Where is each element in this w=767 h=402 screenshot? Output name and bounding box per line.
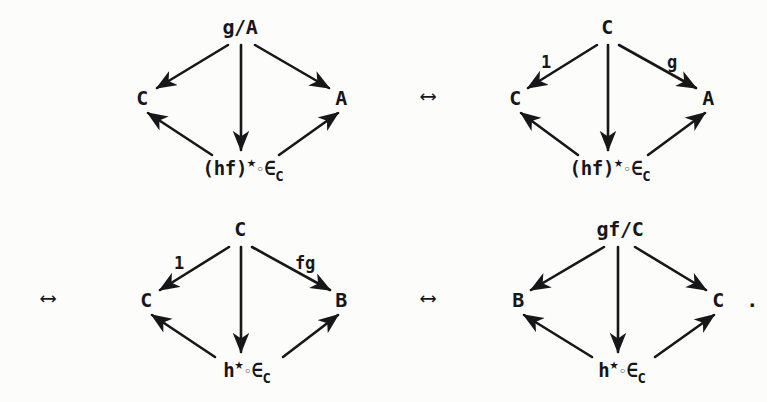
edge-bottom-to-right [283, 315, 338, 357]
diagram-1-apex-label: g/A [222, 17, 257, 37]
diagram-2-apex-label: C [601, 17, 613, 37]
edge-bottom-to-right [279, 113, 338, 155]
composition-ring-icon: ◦ [618, 365, 626, 378]
bottom-subscript: C [275, 168, 283, 184]
figure-canvas: ⟷ ⟷ ⟷ g/A C A (hf)★◦∈C C C A 1 g (hf)★◦∈… [0, 0, 767, 402]
membership-symbol: ∈ [626, 359, 637, 381]
diagram-4-apex-label: gf/C [597, 219, 644, 239]
diagram-4-right-node: C [712, 290, 724, 310]
membership-symbol: ∈ [631, 157, 642, 179]
star-icon: ★ [247, 153, 256, 171]
diagram-3-right-edge-label: fg [295, 255, 315, 272]
bottom-subscript: C [263, 370, 271, 386]
bottom-subscript: C [642, 168, 650, 184]
diagram-2-left-node: C [509, 88, 521, 108]
membership-symbol: ∈ [251, 359, 262, 381]
star-icon: ★ [609, 355, 618, 373]
edge-bottom-to-right [648, 113, 705, 155]
edge-apex-to-right [255, 45, 329, 88]
diagram-1-right-node: A [335, 88, 347, 108]
edge-apex-to-left [531, 247, 604, 290]
diagram-2-bottom-node: (hf)★◦∈C [570, 159, 651, 178]
diagram-2-right-node: A [702, 88, 714, 108]
diagram-3-bottom-node: h★◦∈C [223, 361, 270, 380]
composition-ring-icon: ◦ [256, 163, 264, 176]
composition-ring-icon: ◦ [243, 365, 251, 378]
composition-ring-icon: ◦ [623, 163, 631, 176]
diagram-3-left-edge-label: 1 [174, 255, 184, 272]
edge-bottom-to-left [152, 315, 215, 357]
equivalence-arrow-icon: ⟷ [41, 287, 54, 309]
equivalence-arrow-icon: ⟷ [421, 85, 434, 107]
edge-apex-to-right [252, 247, 330, 290]
diagram-3-right-node: B [335, 290, 347, 310]
bottom-base: h [223, 359, 234, 381]
edge-apex-to-left [528, 45, 597, 88]
diagram-1-bottom-node: (hf)★◦∈C [203, 159, 284, 178]
diagram-1-left-node: C [136, 88, 148, 108]
edge-apex-to-right [635, 247, 706, 290]
star-icon: ★ [614, 153, 623, 171]
edge-bottom-to-right [655, 315, 714, 357]
edge-bottom-to-left [521, 113, 578, 155]
edge-bottom-to-left [148, 113, 212, 155]
edge-apex-to-left [160, 247, 229, 290]
diagram-4-left-node: B [512, 290, 524, 310]
edge-bottom-to-left [524, 315, 592, 357]
diagram-arrows-layer [0, 0, 767, 402]
bottom-subscript: C [638, 370, 646, 386]
star-icon: ★ [234, 355, 243, 373]
bottom-base: (hf) [203, 157, 248, 179]
edge-apex-to-right [619, 45, 696, 88]
bottom-base: h [598, 359, 609, 381]
diagram-2-right-edge-label: g [667, 54, 677, 71]
membership-symbol: ∈ [264, 157, 275, 179]
bottom-base: (hf) [570, 157, 615, 179]
diagram-4-bottom-node: h★◦∈C [598, 361, 645, 380]
diagram-3-apex-label: C [234, 219, 246, 239]
diagram-2-left-edge-label: 1 [541, 54, 551, 71]
edge-apex-to-left [157, 45, 228, 88]
trailing-period: . [746, 290, 758, 310]
diagram-3-left-node: C [140, 290, 152, 310]
equivalence-arrow-icon: ⟷ [421, 287, 434, 309]
